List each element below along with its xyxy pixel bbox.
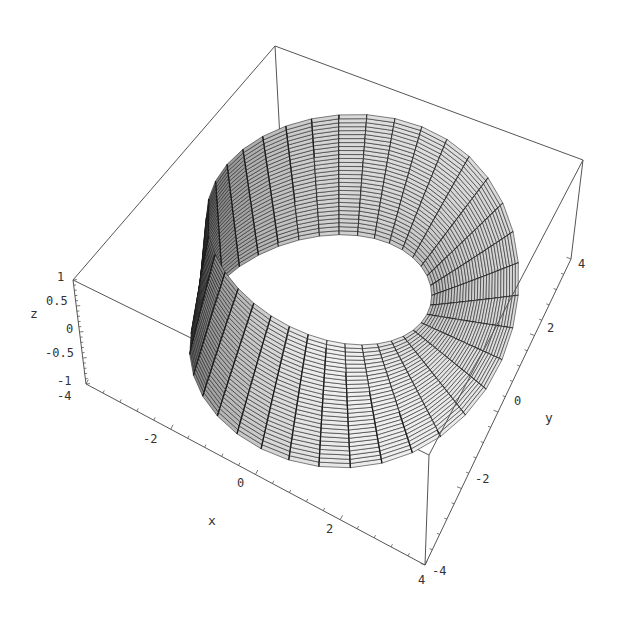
x-axis-label: x [208,513,216,528]
plot-stage: -2024-4-202410.50-0.5-1-4 x y z [0,0,617,622]
z-tick-label: 1 [57,270,64,284]
z-tick-label: -0.5 [45,346,74,360]
x-tick-label: -2 [143,432,157,446]
surface-plot-3d: -2024-4-202410.50-0.5-1-4 x y z [0,0,617,622]
y-axis-label: y [545,410,553,425]
z-axis-label: z [30,306,38,321]
y-tick-label: -2 [475,472,489,486]
y-tick-label: 0 [514,394,521,408]
z-tick-label: 0 [66,322,73,336]
x-tick-label: 4 [418,573,425,587]
y-tick-label: 4 [578,257,585,271]
x-tick-label: 0 [237,476,244,490]
y-tick-label: -4 [432,564,446,578]
z-tick-label: -1 [57,374,71,388]
z-tick-label: 0.5 [46,294,68,308]
surface-mesh [190,115,519,468]
z-tick-label: -4 [57,389,71,403]
x-tick-label: 2 [326,522,333,536]
y-tick-label: 2 [547,321,554,335]
